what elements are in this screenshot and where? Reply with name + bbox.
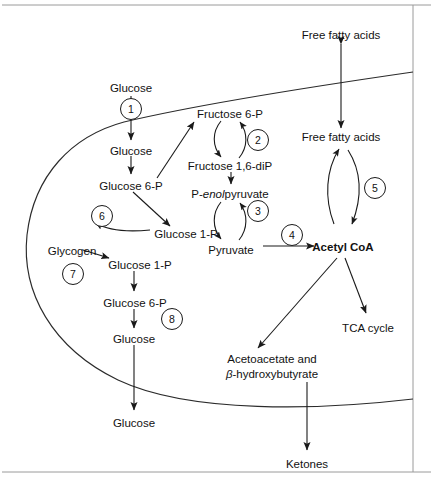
enzyme-step-4[interactable]: 4	[282, 225, 303, 246]
label-glucose-6-phosphate-upper: Glucose 6-P	[99, 180, 163, 192]
enzyme-step-7[interactable]: 7	[63, 264, 84, 285]
arrow-f16dip-to-f6p	[239, 122, 246, 158]
label-tca-cycle: TCA cycle	[342, 322, 394, 334]
enzyme-step-8[interactable]: 8	[162, 309, 183, 330]
arrow-f6p-to-f16dip	[214, 121, 221, 157]
enzyme-step-4-number: 4	[289, 229, 295, 241]
enzyme-step-1[interactable]: 1	[121, 99, 142, 120]
enzyme-step-3-number: 3	[255, 205, 261, 217]
label-glucose-6-phosphate-lower: Glucose 6-P	[103, 297, 167, 309]
label-fructose-1-6-bisphosphate: Fructose 1,6-diP	[188, 160, 273, 172]
figure-canvas: 1 2 3 4 5 6 7 8 Glucose	[0, 0, 433, 477]
label-pyruvate: Pyruvate	[208, 244, 253, 256]
label-free-fatty-acids-intracellular: Free fatty acids	[302, 131, 381, 143]
pep-italic: enol	[203, 188, 225, 200]
enzyme-step-5[interactable]: 5	[365, 178, 386, 199]
hydroxybutyrate-text: -hydroxybutyrate	[232, 368, 318, 380]
pep-suffix: pyruvate	[225, 188, 269, 200]
label-acetoacetate: Acetoacetate and	[227, 353, 317, 365]
enzyme-step-5-number: 5	[372, 182, 378, 194]
pathway-diagram: 1 2 3 4 5 6 7 8 Glucose	[0, 0, 433, 477]
label-free-fatty-acids-extracellular: Free fatty acids	[302, 29, 381, 41]
label-acetyl-coa: Acetyl CoA	[312, 241, 373, 253]
enzyme-step-1-number: 1	[128, 103, 134, 115]
label-glucose-intracellular-lower: Glucose	[113, 333, 155, 345]
label-glycogen: Glycogen	[48, 245, 97, 257]
label-glucose-extracellular-bottom: Glucose	[113, 417, 155, 429]
pep-prefix: P-	[191, 188, 203, 200]
label-glucose-1-phosphate-lower: Glucose 1-P	[108, 259, 172, 271]
enzyme-step-6[interactable]: 6	[92, 206, 113, 227]
enzyme-step-6-number: 6	[99, 210, 105, 222]
label-glucose-1-phosphate-upper: Glucose 1-P	[154, 228, 218, 240]
label-glucose-intracellular: Glucose	[110, 145, 152, 157]
label-phosphoenolpyruvate: P-enolpyruvate	[191, 188, 268, 200]
arrow-g6p-to-g1p	[133, 192, 170, 226]
label-ketones: Ketones	[286, 458, 328, 470]
arrow-acetylcoa-to-tca	[345, 258, 366, 313]
arrow-acetylcoa-to-ketone-bodies	[258, 258, 337, 348]
enzyme-step-8-number: 8	[169, 313, 175, 325]
enzyme-step-2-number: 2	[255, 134, 261, 146]
arrow-ffa-to-acetylcoa	[348, 150, 359, 224]
label-glucose-extracellular-top: Glucose	[110, 82, 152, 94]
enzyme-step-2[interactable]: 2	[248, 130, 269, 151]
enzyme-step-7-number: 7	[70, 268, 76, 280]
arrow-acetylcoa-to-ffa	[328, 149, 339, 224]
enzyme-step-3[interactable]: 3	[248, 201, 269, 222]
arrow-pyruvate-to-pep	[239, 203, 246, 240]
label-fructose-6-phosphate: Fructose 6-P	[197, 108, 263, 120]
label-beta-hydroxybutyrate: β-hydroxybutyrate	[225, 368, 318, 380]
